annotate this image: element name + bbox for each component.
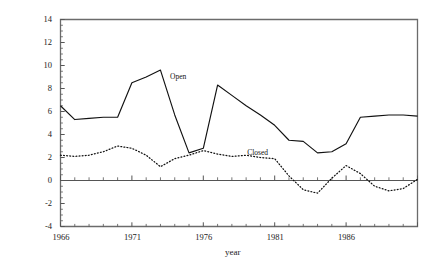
x-tick-label: 1986 [334,233,360,242]
x-tick-label: 1981 [262,233,288,242]
y-tick-label: 6 [22,107,52,116]
chart-figure: 14121086420-2-4 19661971197619811986 Ope… [0,0,431,265]
y-tick-label: 14 [22,15,52,24]
x-tick-label: 1971 [119,233,145,242]
y-tick-label: 4 [22,130,52,139]
y-tick-label: -2 [22,199,52,208]
line-chart-canvas [0,0,431,265]
x-tick-label: 1976 [191,233,217,242]
y-tick-label: 8 [22,84,52,93]
y-tick-label: 12 [22,38,52,47]
series-annotation-closed: Closed [247,149,268,157]
x-tick-label: 1966 [48,233,74,242]
y-tick-label: 2 [22,153,52,162]
series-annotation-open: Open [170,73,186,81]
y-tick-label: 0 [22,176,52,185]
y-tick-label: -4 [22,222,52,231]
chart-background [0,0,431,265]
x-axis-title: year [225,248,241,257]
y-tick-label: 10 [22,61,52,70]
